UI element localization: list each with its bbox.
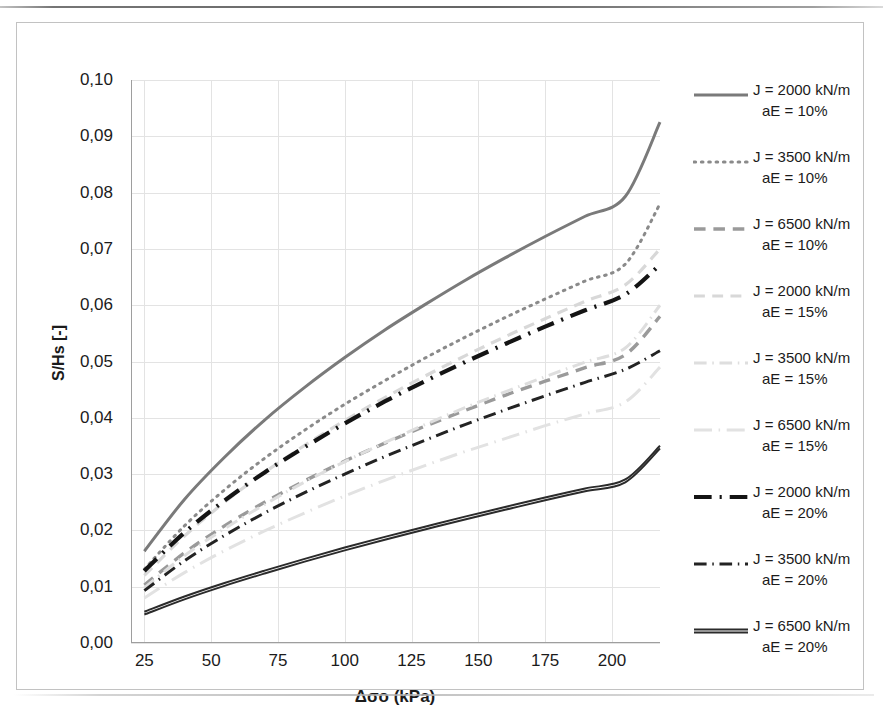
gridline-horizontal <box>131 643 660 644</box>
legend: J = 2000 kN/maE = 10%J = 3500 kN/maE = 1… <box>693 79 873 679</box>
legend-label-line2: aE = 20% <box>753 636 875 657</box>
y-axis: S/Hs [-] 0,100,090,080,070,060,050,040,0… <box>17 23 131 722</box>
legend-swatch <box>693 222 749 236</box>
y-tick-label: 0,06 <box>17 295 113 315</box>
legend-label: J = 2000 kN/maE = 20% <box>753 481 875 523</box>
legend-item[interactable]: J = 6500 kN/maE = 20% <box>693 615 873 661</box>
legend-item[interactable]: J = 2000 kN/maE = 15% <box>693 280 873 326</box>
curve-series <box>144 367 660 598</box>
legend-label-line2: aE = 20% <box>753 569 875 590</box>
legend-item[interactable]: J = 6500 kN/maE = 10% <box>693 213 873 259</box>
legend-label-line1: J = 3500 kN/m <box>753 146 875 167</box>
legend-label-line1: J = 6500 kN/m <box>753 213 875 234</box>
x-tick-label: 50 <box>202 651 221 671</box>
y-tick-label: 0,02 <box>17 520 113 540</box>
x-tick-label: 200 <box>598 651 626 671</box>
x-tick-label: 100 <box>331 651 359 671</box>
y-tick-label: 0,03 <box>17 464 113 484</box>
legend-item[interactable]: J = 3500 kN/maE = 15% <box>693 347 873 393</box>
legend-label: J = 6500 kN/maE = 20% <box>753 615 875 657</box>
legend-label-line2: aE = 15% <box>753 368 875 389</box>
y-tick-label: 0,09 <box>17 126 113 146</box>
curve-line <box>144 305 660 588</box>
y-tick-label: 0,08 <box>17 183 113 203</box>
legend-swatch <box>693 289 749 303</box>
legend-item[interactable]: J = 3500 kN/maE = 20% <box>693 548 873 594</box>
legend-swatch <box>693 557 749 571</box>
y-tick-label: 0,07 <box>17 239 113 259</box>
curve-line <box>144 265 660 571</box>
legend-label: J = 3500 kN/maE = 10% <box>753 146 875 188</box>
legend-label-line1: J = 3500 kN/m <box>753 347 875 368</box>
plot-area <box>131 80 660 643</box>
curve-series-layer <box>131 80 660 643</box>
legend-label: J = 6500 kN/maE = 15% <box>753 414 875 456</box>
y-tick-label: 0,04 <box>17 408 113 428</box>
legend-label-line1: J = 6500 kN/m <box>753 414 875 435</box>
curve-line <box>144 367 660 598</box>
legend-label-line2: aE = 15% <box>753 301 875 322</box>
x-tick-label: 25 <box>135 651 154 671</box>
x-tick-label: 175 <box>531 651 559 671</box>
legend-label-line1: J = 2000 kN/m <box>753 79 875 100</box>
y-tick-label: 0,01 <box>17 577 113 597</box>
curve-line <box>144 316 660 585</box>
legend-swatch <box>693 423 749 437</box>
legend-swatch <box>693 88 749 102</box>
x-tick-label: 125 <box>397 651 425 671</box>
legend-label-line2: aE = 20% <box>753 502 875 523</box>
legend-swatch <box>693 356 749 370</box>
legend-label-line1: J = 2000 kN/m <box>753 280 875 301</box>
y-tick-label: 0,00 <box>17 633 113 653</box>
x-tick-label: 75 <box>268 651 287 671</box>
legend-label: J = 3500 kN/maE = 15% <box>753 347 875 389</box>
curve-line <box>144 122 660 551</box>
legend-label-line1: J = 6500 kN/m <box>753 615 875 636</box>
legend-item[interactable]: J = 2000 kN/maE = 10% <box>693 79 873 125</box>
curve-series <box>144 265 660 571</box>
legend-label-line1: J = 2000 kN/m <box>753 481 875 502</box>
scan-artifact-top-edge <box>0 6 883 8</box>
scan-artifact-bottom-edge <box>14 694 874 696</box>
legend-label: J = 2000 kN/maE = 15% <box>753 280 875 322</box>
y-tick-label: 0,05 <box>17 352 113 372</box>
legend-item[interactable]: J = 3500 kN/maE = 10% <box>693 146 873 192</box>
legend-label: J = 2000 kN/maE = 10% <box>753 79 875 121</box>
legend-label: J = 6500 kN/maE = 10% <box>753 213 875 255</box>
legend-item[interactable]: J = 2000 kN/maE = 20% <box>693 481 873 527</box>
legend-item[interactable]: J = 6500 kN/maE = 15% <box>693 414 873 460</box>
curve-series <box>144 446 660 615</box>
y-tick-label: 0,10 <box>17 70 113 90</box>
chart-frame: S/Hs [-] 0,100,090,080,070,060,050,040,0… <box>16 22 864 690</box>
legend-label-line2: aE = 10% <box>753 167 875 188</box>
legend-label-line2: aE = 10% <box>753 234 875 255</box>
x-tick-label: 150 <box>464 651 492 671</box>
legend-label: J = 3500 kN/maE = 20% <box>753 548 875 590</box>
legend-swatch <box>693 490 749 504</box>
curve-series <box>144 305 660 588</box>
legend-swatch <box>693 624 749 638</box>
curve-series <box>144 316 660 585</box>
curve-series <box>144 122 660 551</box>
legend-swatch <box>693 155 749 169</box>
x-axis-title: Δσo (kPa) <box>355 687 436 707</box>
legend-label-line2: aE = 10% <box>753 100 875 121</box>
legend-label-line2: aE = 15% <box>753 435 875 456</box>
legend-label-line1: J = 3500 kN/m <box>753 548 875 569</box>
